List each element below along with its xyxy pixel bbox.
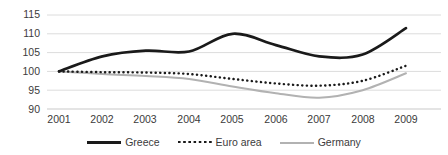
xtick-label-2005: 2005	[212, 114, 252, 125]
legend-swatch-greece-icon	[87, 137, 121, 147]
xtick-label-2007: 2007	[299, 114, 339, 125]
ytick-label-100: 100	[14, 66, 40, 77]
chart-legend: Greece Euro area Germany	[0, 132, 448, 152]
series-line-greece	[59, 28, 406, 71]
xtick-label-2004: 2004	[169, 114, 209, 125]
ytick-label-90: 90	[14, 104, 40, 115]
legend-item-euro-area[interactable]: Euro area	[178, 137, 262, 148]
xtick-label-2006: 2006	[256, 114, 296, 125]
legend-item-germany[interactable]: Germany	[280, 137, 361, 148]
xtick-label-2001: 2001	[39, 114, 79, 125]
legend-swatch-euro-area-icon	[178, 137, 212, 147]
line-chart: 115 110 105 100 95 90 2001 2002 2003 200…	[0, 0, 448, 155]
legend-item-greece[interactable]: Greece	[87, 137, 159, 148]
ytick-label-115: 115	[14, 9, 40, 20]
gridlines	[47, 15, 441, 109]
legend-swatch-germany-icon	[280, 137, 314, 147]
xtick-label-2009: 2009	[386, 114, 426, 125]
series-line-euro-area	[59, 66, 406, 86]
legend-label-germany: Germany	[318, 137, 361, 148]
ytick-label-95: 95	[14, 85, 40, 96]
legend-label-greece: Greece	[125, 137, 159, 148]
xtick-label-2002: 2002	[82, 114, 122, 125]
xtick-label-2008: 2008	[343, 114, 383, 125]
series-line-germany	[59, 71, 406, 97]
xtick-label-2003: 2003	[125, 114, 165, 125]
ytick-label-105: 105	[14, 47, 40, 58]
series-lines	[59, 28, 406, 98]
ytick-label-110: 110	[14, 28, 40, 39]
legend-label-euro-area: Euro area	[216, 137, 262, 148]
